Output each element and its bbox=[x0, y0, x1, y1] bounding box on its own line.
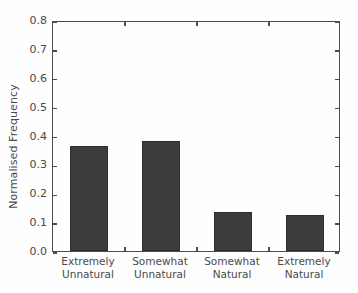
y-tick-label: 0.7 bbox=[30, 43, 48, 56]
x-axis-label-line: Unnatural bbox=[124, 268, 196, 281]
y-tick-mark-right bbox=[335, 166, 339, 167]
y-axis-title: Normalised Frequency bbox=[0, 0, 26, 293]
x-axis-label-line: Somewhat bbox=[196, 255, 268, 268]
y-tick-label: 0.5 bbox=[30, 101, 48, 114]
y-tick-mark bbox=[53, 195, 57, 196]
y-tick-mark bbox=[53, 252, 57, 253]
y-tick-label: 0.1 bbox=[30, 216, 48, 229]
plot-inner: 0.00.10.20.30.40.50.60.70.8 bbox=[53, 22, 339, 251]
y-tick-mark-right bbox=[335, 195, 339, 196]
y-tick-mark-right bbox=[335, 137, 339, 138]
y-tick-mark bbox=[53, 166, 57, 167]
y-tick-mark bbox=[53, 137, 57, 138]
x-tick-mark bbox=[268, 247, 269, 251]
y-tick-mark-right bbox=[335, 79, 339, 80]
y-tick-mark bbox=[53, 223, 57, 224]
x-axis-label-line: Natural bbox=[268, 268, 340, 281]
x-tick-mark-top bbox=[124, 22, 125, 26]
x-axis-label: SomewhatUnnatural bbox=[124, 255, 196, 281]
x-tick-mark-top bbox=[196, 22, 197, 26]
y-tick-mark bbox=[53, 50, 57, 51]
y-tick-label: 0.4 bbox=[30, 130, 48, 143]
x-axis-label: ExtremelyNatural bbox=[268, 255, 340, 281]
x-tick-mark-top bbox=[268, 22, 269, 26]
bar bbox=[214, 212, 252, 251]
x-axis-label-line: Natural bbox=[196, 268, 268, 281]
x-tick-mark bbox=[124, 247, 125, 251]
y-tick-label: 0.0 bbox=[30, 245, 48, 258]
bar bbox=[70, 146, 108, 251]
y-tick-label: 0.8 bbox=[30, 14, 48, 27]
x-axis-label-line: Somewhat bbox=[124, 255, 196, 268]
y-tick-mark bbox=[53, 21, 57, 22]
y-tick-mark-right bbox=[335, 108, 339, 109]
x-axis-label-line: Extremely bbox=[268, 255, 340, 268]
y-tick-mark-right bbox=[335, 223, 339, 224]
y-tick-mark-right bbox=[335, 21, 339, 22]
y-tick-mark bbox=[53, 79, 57, 80]
bar bbox=[142, 141, 180, 251]
x-axis-labels: ExtremelyUnnaturalSomewhatUnnaturalSomew… bbox=[52, 255, 340, 289]
y-tick-label: 0.2 bbox=[30, 187, 48, 200]
bar bbox=[286, 215, 324, 251]
y-tick-label: 0.6 bbox=[30, 72, 48, 85]
x-axis-label: ExtremelyUnnatural bbox=[52, 255, 124, 281]
x-axis-label-line: Unnatural bbox=[52, 268, 124, 281]
y-tick-label: 0.3 bbox=[30, 158, 48, 171]
x-tick-mark bbox=[196, 247, 197, 251]
y-tick-mark bbox=[53, 108, 57, 109]
bar-chart: Normalised Frequency 0.00.10.20.30.40.50… bbox=[0, 0, 358, 293]
x-axis-label-line: Extremely bbox=[52, 255, 124, 268]
x-axis-label: SomewhatNatural bbox=[196, 255, 268, 281]
y-tick-mark-right bbox=[335, 50, 339, 51]
plot-area: 0.00.10.20.30.40.50.60.70.8 bbox=[52, 21, 340, 252]
y-tick-mark-right bbox=[335, 252, 339, 253]
